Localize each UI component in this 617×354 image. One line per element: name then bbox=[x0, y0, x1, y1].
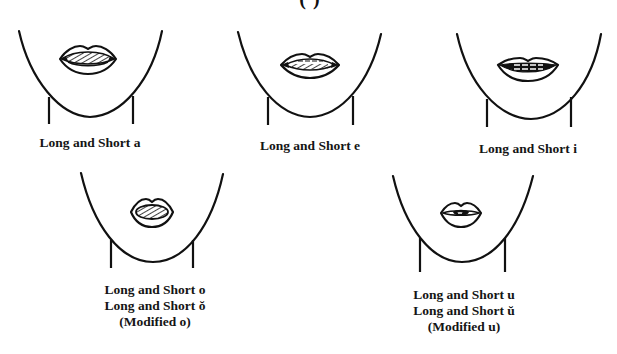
face-u bbox=[393, 176, 533, 272]
vowel-mouth-positions-diagram: ( ) bbox=[0, 0, 617, 354]
mouth-i bbox=[498, 58, 558, 81]
mouth-o bbox=[131, 199, 173, 227]
face-a bbox=[19, 31, 162, 124]
label-i: Long and Short i bbox=[468, 141, 588, 157]
label-a: Long and Short a bbox=[30, 135, 150, 151]
label-e: Long and Short e bbox=[250, 138, 370, 154]
face-e bbox=[238, 32, 381, 125]
label-u-line-3: (Modified u) bbox=[399, 319, 529, 335]
label-o-line-3: (Modified o) bbox=[90, 314, 220, 330]
label-e-line-1: Long and Short e bbox=[250, 138, 370, 154]
mouth-e bbox=[281, 54, 339, 78]
label-a-line-1: Long and Short a bbox=[30, 135, 150, 151]
label-o-line-2: Long and Short ŏ bbox=[90, 298, 220, 314]
label-o: Long and Short o Long and Short ŏ (Modif… bbox=[90, 282, 220, 330]
label-u: Long and Short u Long and Short ŭ (Modif… bbox=[399, 287, 529, 335]
mouth-u bbox=[441, 203, 481, 227]
label-u-line-2: Long and Short ŭ bbox=[399, 303, 529, 319]
face-i bbox=[457, 34, 601, 127]
face-o bbox=[81, 173, 223, 268]
label-u-line-1: Long and Short u bbox=[399, 287, 529, 303]
label-o-line-1: Long and Short o bbox=[90, 282, 220, 298]
mouth-a bbox=[60, 46, 116, 74]
label-i-line-1: Long and Short i bbox=[468, 141, 588, 157]
